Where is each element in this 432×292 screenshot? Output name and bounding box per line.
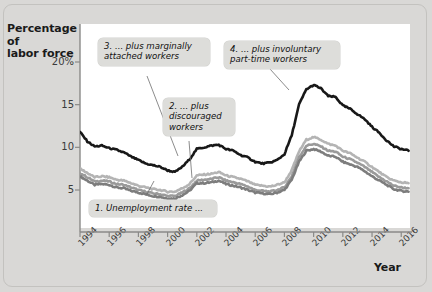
callout-unemployment-rate: 1. Unemployment rate ... xyxy=(89,200,217,217)
callout-discouraged: 2. ... plus discouraged workers xyxy=(163,98,235,136)
callout-marginally-attached: 3. ... plus marginally attached workers xyxy=(98,38,210,66)
chart-figure: Percentage of labor force Year 20% 15 10… xyxy=(0,0,432,292)
chart-canvas xyxy=(0,0,432,292)
callout-involuntary-parttime: 4. ... plus involuntary part-time worker… xyxy=(224,41,340,69)
data-series-group xyxy=(80,85,409,199)
leader-line-4 xyxy=(270,69,289,90)
